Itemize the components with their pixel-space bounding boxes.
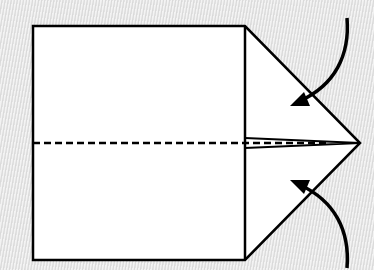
diagram-canvas bbox=[0, 0, 374, 270]
origami-diagram bbox=[0, 0, 374, 270]
